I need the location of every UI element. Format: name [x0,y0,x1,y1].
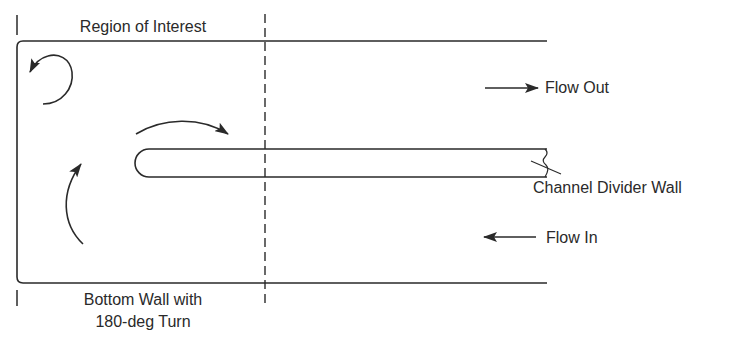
region-of-interest-label: Region of Interest [40,19,246,35]
channel-divider-wall-label: Channel Divider Wall [533,180,682,196]
bottom-wall-label-line1: Bottom Wall with [40,292,246,308]
outer-channel-wall [17,41,547,283]
channel-divider-wall [135,149,547,177]
channel-diagram [0,0,734,340]
divider-break-symbol [543,149,548,177]
recirculation-arrow-icon [30,55,72,104]
bottom-wall-label-line2: 180-deg Turn [40,314,246,330]
flow-out-label: Flow Out [545,80,609,96]
channel-divider-leader-line [531,161,561,174]
turn-over-divider-arrow-icon [136,121,228,134]
upward-turn-arrow-icon [66,164,83,244]
flow-in-label: Flow In [546,230,598,246]
